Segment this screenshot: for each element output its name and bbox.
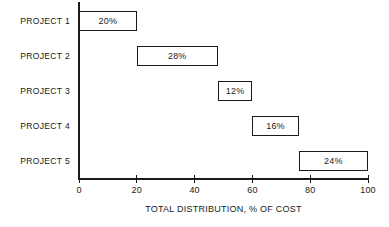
x-tick-label-0: 0 [76,185,81,195]
bar-5: 24% [299,151,368,171]
x-tick-label-20: 20 [132,185,142,195]
bar-value-label-4: 16% [266,121,285,131]
bar-4: 16% [252,116,298,136]
x-tick-80 [310,175,311,183]
bar-value-label-1: 20% [99,16,118,26]
x-tick-100 [368,175,369,183]
category-label-3: PROJECT 3 [20,86,70,96]
bar-value-label-3: 12% [226,86,245,96]
x-axis-title: TOTAL DISTRIBUTION, % OF COST [78,204,369,214]
bar-value-label-2: 28% [168,51,187,61]
x-tick-label-100: 100 [360,185,376,195]
bar-1: 20% [79,11,137,31]
x-tick-label-80: 80 [305,185,315,195]
x-axis-line [78,178,369,180]
category-label-2: PROJECT 2 [20,51,70,61]
x-tick-60 [252,175,253,183]
x-tick-20 [136,175,137,183]
plot-area: 020406080100 PROJECT 1PROJECT 2PROJECT 3… [0,0,389,227]
category-label-5: PROJECT 5 [20,156,70,166]
x-tick-label-60: 60 [247,185,257,195]
bar-2: 28% [137,46,218,66]
cascade-bar-chart: 020406080100 PROJECT 1PROJECT 2PROJECT 3… [0,0,389,227]
category-label-4: PROJECT 4 [20,121,70,131]
x-tick-0 [79,175,80,183]
category-label-1: PROJECT 1 [20,16,70,26]
bar-value-label-5: 24% [324,156,343,166]
x-tick-40 [194,175,195,183]
bar-3: 12% [218,81,253,101]
x-tick-label-40: 40 [189,185,199,195]
